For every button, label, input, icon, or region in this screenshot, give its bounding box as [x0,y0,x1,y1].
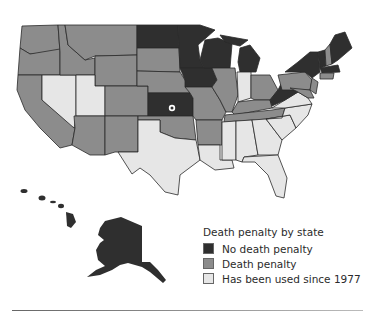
state-in [237,72,251,102]
state-fl [242,155,287,198]
legend-item-used-since-1977: Has been used since 1977 [203,271,361,286]
legend-title: Death penalty by state [203,226,361,238]
state-wy [95,55,137,86]
bottom-divider [12,310,363,311]
legend-swatch-light [203,273,214,284]
state-sd [137,48,180,72]
legend-swatch-medium [203,258,214,269]
legend-label: Has been used since 1977 [222,273,361,285]
state-me [330,32,352,64]
legend-item-death-penalty: Death penalty [203,256,361,271]
state-az [72,116,105,155]
legend-label: No death penalty [222,243,313,255]
state-pa [278,72,312,90]
state-co [105,86,148,116]
state-nd [137,25,179,48]
state-mi-lower [238,45,260,72]
alaska [87,217,166,283]
state-ms [222,121,236,160]
state-nm [105,116,138,155]
kansas-marker-icon [169,105,175,111]
state-ia [180,68,217,87]
state-ar [196,120,222,145]
state-ks [148,93,193,116]
legend-item-no-death-penalty: No death penalty [203,241,361,256]
hawaii [21,189,77,228]
legend-swatch-dark [203,243,214,254]
map-legend: Death penalty by state No death penalty … [203,226,361,286]
state-ct-ri [320,73,334,79]
legend-label: Death penalty [222,258,297,270]
